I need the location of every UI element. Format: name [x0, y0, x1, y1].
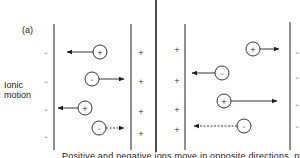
- right-cell-negative-charge: –: [295, 74, 299, 82]
- right-cell-positive-charge: +: [174, 106, 180, 114]
- left-cell-positive-charge: +: [138, 49, 144, 57]
- right-cell-negative-charge: –: [295, 101, 299, 109]
- ion-charge-sign: +: [221, 98, 227, 106]
- positive-ion: +: [246, 42, 279, 56]
- ion-charge-sign: +: [250, 46, 256, 54]
- panel-label: (a): [22, 25, 33, 35]
- ionic-motion-label: Ionic motion: [4, 80, 31, 100]
- ion-charge-sign: –: [220, 70, 224, 78]
- left-cell-negative-charge: –: [44, 106, 48, 114]
- left-cell-positive-charge: +: [138, 78, 144, 86]
- right-cell-negative-charge: –: [295, 49, 299, 57]
- ion-charge-sign: +: [97, 49, 103, 57]
- ion-charge-sign: –: [97, 125, 101, 133]
- negative-ion: –: [85, 72, 124, 86]
- left-cell-negative-charge: –: [44, 49, 48, 57]
- positive-ion: +: [217, 94, 277, 108]
- right-cell-positive-charge: +: [174, 126, 180, 134]
- left-cell-positive-charge: +: [138, 130, 144, 138]
- positive-ion: +: [58, 101, 92, 115]
- right-cell-negative-charge: –: [295, 123, 299, 131]
- negative-ion: –: [192, 66, 229, 80]
- ion-charge-sign: –: [242, 123, 246, 131]
- ionic-motion-diagram: ––––++++++++–––– +–+–+–+–: [0, 0, 300, 158]
- left-cell-positive-charge: +: [138, 108, 144, 116]
- negative-ion: –: [194, 119, 251, 133]
- ionic-motion-label-line1: Ionic: [4, 80, 31, 90]
- right-cell-positive-charge: +: [174, 46, 180, 54]
- left-cell-negative-charge: –: [44, 78, 48, 86]
- ionic-motion-label-line2: motion: [4, 90, 31, 100]
- left-cell-negative-charge: –: [44, 133, 48, 141]
- ion-charge-sign: +: [82, 105, 88, 113]
- ion-charge-sign: –: [90, 76, 94, 84]
- right-cell-positive-charge: +: [174, 77, 180, 85]
- negative-ion: –: [92, 121, 124, 135]
- figure-caption: Positive and negative ions move in oppos…: [62, 151, 300, 158]
- positive-ion: +: [67, 45, 107, 59]
